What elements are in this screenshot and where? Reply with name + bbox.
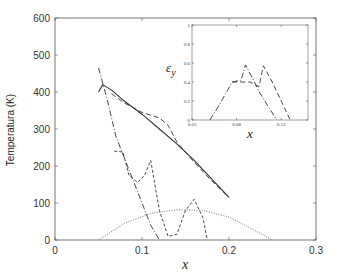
inset-y-axis-label: εy	[166, 60, 176, 78]
y-tick-label: 100	[33, 198, 50, 209]
y-tick-label: 0.8	[184, 42, 191, 47]
y-axis-label: Temperatura (K)	[5, 94, 16, 166]
x-tick-label: 0.1	[135, 245, 149, 256]
series-dotted-line	[99, 210, 273, 240]
y-tick-label: 400	[33, 87, 50, 98]
x-tick-label: 0.2	[222, 245, 236, 256]
y-tick-label: 0	[44, 235, 50, 246]
x-axis-label: x	[181, 257, 189, 272]
y-tick-label: 600	[33, 13, 50, 24]
x-tick-label: 0	[52, 245, 58, 256]
y-tick-label: 0.2	[184, 99, 191, 104]
y-tick-label: 300	[33, 124, 50, 135]
x-tick-label: 0.13	[277, 122, 286, 127]
inset-x-axis-label: x	[246, 126, 253, 141]
series-short-dashed-line	[114, 151, 207, 240]
x-tick-label: 0.08	[232, 122, 241, 127]
y-tick-label: 500	[33, 50, 50, 61]
temperature-chart: 00.10.20.30100200300400500600 Temperatur…	[0, 0, 339, 278]
x-tick-label: 0.3	[309, 245, 323, 256]
series-dash-dot-line	[99, 68, 160, 240]
y-tick-label: 200	[33, 161, 50, 172]
y-tick-label: 0.6	[184, 61, 191, 66]
y-tick-label: 1	[188, 23, 191, 28]
y-tick-label: 0.4	[184, 80, 191, 85]
